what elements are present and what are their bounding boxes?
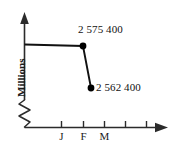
x-axis-tick-label-feb: F: [76, 130, 92, 142]
data-point-marker: [80, 43, 87, 50]
x-axis-arrowhead: [155, 123, 168, 132]
x-axis-tick-label-jan: J: [54, 130, 70, 142]
line-chart: Millions 2 575 400 2 562 400 J F M: [0, 0, 173, 151]
data-point-label-high: 2 575 400: [78, 23, 123, 35]
x-axis-tick-label-mar: M: [97, 130, 113, 142]
data-line-series: [25, 45, 92, 89]
y-axis-arrowhead: [20, 12, 29, 24]
y-axis-break-icon: [19, 100, 30, 127]
data-point-label-low: 2 562 400: [96, 81, 141, 93]
data-point-marker: [88, 85, 95, 92]
y-axis-title: Millions: [15, 58, 27, 97]
